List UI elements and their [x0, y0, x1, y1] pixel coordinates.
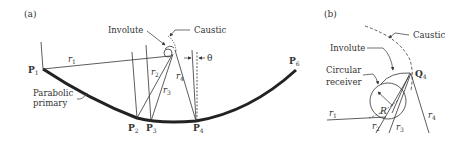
caustic-leader [170, 30, 190, 36]
p4-label: P4 [193, 123, 204, 134]
panel-b-tag: (b) [324, 9, 337, 19]
r3-label-b: r3 [396, 122, 404, 133]
figure: (a) Involute Caustic [0, 0, 471, 143]
diagram-canvas: (a) Involute Caustic [0, 0, 471, 143]
r1-label-b: r1 [329, 108, 337, 119]
involute-label: Involute [108, 25, 143, 35]
radius-arrow [378, 92, 393, 106]
r2-label-a: r2 [151, 67, 159, 78]
receiver-label-line1: Circular [326, 65, 362, 75]
receiver-circle-small [164, 49, 172, 57]
parabolic-label-line2: primary [33, 98, 67, 108]
r1-label-a: r1 [68, 54, 76, 65]
r4-label-a: r4 [176, 71, 184, 82]
involute-leader-b [367, 48, 393, 70]
p2-label: P2 [128, 123, 139, 134]
r3-label-a: r3 [163, 85, 171, 96]
p1-label: P1 [28, 65, 39, 76]
caustic-curve [365, 26, 412, 90]
p3-label: P3 [146, 123, 157, 134]
involute-curve-small [165, 46, 174, 49]
caustic-leader-b [389, 33, 409, 38]
q4-label: Q4 [415, 69, 427, 80]
radius-label: R [379, 106, 387, 116]
p6-label: P6 [289, 56, 300, 67]
parabolic-label-line1: Parabolic [33, 88, 74, 98]
theta-label: θ [207, 53, 212, 63]
involute-label-b: Involute [330, 43, 365, 53]
panel-a-tag: (a) [24, 9, 36, 19]
receiver-leader [363, 74, 378, 84]
r2-label-b: r2 [372, 121, 380, 132]
receiver-label-line2: receiver [326, 77, 362, 87]
panel-b: (b) Caustic R Involute Circular receiver… [324, 9, 446, 133]
caustic-label: Caustic [194, 25, 227, 35]
r4-label-b: r4 [428, 110, 436, 121]
caustic-label-b: Caustic [413, 30, 446, 40]
involute-leader [147, 31, 165, 45]
panel-a: (a) Involute Caustic [24, 9, 300, 134]
